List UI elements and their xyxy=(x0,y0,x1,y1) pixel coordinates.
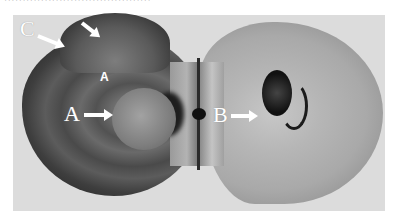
left-shell-umbo xyxy=(60,13,170,73)
label-c: C xyxy=(20,18,35,40)
hinge-ligament xyxy=(192,108,206,120)
right-organ-ring xyxy=(280,82,308,130)
label-b: B xyxy=(213,104,228,126)
arrow-b xyxy=(231,114,251,118)
label-a-small: A xyxy=(100,71,109,83)
arrow-a xyxy=(84,113,106,117)
caption-text-fragment: ········································ xyxy=(0,0,393,6)
label-a: A xyxy=(64,103,80,125)
adductor-muscle xyxy=(112,88,176,150)
